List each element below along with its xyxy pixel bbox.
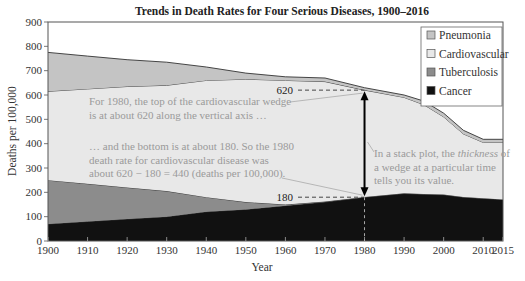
note-top-line: For 1980, the top of the cardiovascular … [89,95,291,107]
y-tick-label: 200 [26,186,43,198]
x-axis-label: Year [251,261,272,273]
legend-label-cancer: Cancer [439,85,472,97]
y-tick-label: 900 [26,16,43,28]
x-tick-label: 1900 [37,244,60,256]
y-axis-label: Deaths per 100,000 [6,86,19,176]
y-tick-label: 100 [26,210,43,222]
note-bottom-line: about 620 − 180 = 440 (deaths per 100,00… [89,167,286,180]
note-right-line: In a stack plot, the thickness of [374,147,510,159]
x-tick-label: 1940 [195,244,218,256]
legend: PneumoniaCardiovascularTuberculosisCance… [421,27,509,106]
y-tick-label: 300 [26,162,43,174]
x-tick-label: 1980 [354,244,377,256]
y-tick-label: 400 [26,137,43,149]
legend-swatch-tuberculosis [427,68,435,76]
x-tick-label: 1930 [156,244,179,256]
legend-swatch-cancer [427,87,435,95]
note-top-line: is at about 620 along the vertical axis … [89,109,267,121]
legend-label-pneumonia: Pneumonia [439,29,491,41]
x-tick-label: 1910 [77,244,100,256]
x-tick-label: 2000 [433,244,456,256]
legend-label-tuberculosis: Tuberculosis [439,66,499,78]
note-bottom-line: … and the bottom is at about 180. So the… [89,140,295,152]
note-right-line: tells you its value. [374,174,454,186]
y-tick-label: 500 [26,113,43,125]
y-tick-label: 700 [26,64,43,76]
stacked-area-chart: Trends in Death Rates for Four Serious D… [0,0,525,281]
note-bottom-line: death rate for cardiovascular disease wa… [89,154,269,166]
bottom-marker-label: 180 [277,191,294,203]
x-tick-label: 1960 [274,244,297,256]
x-tick-label: 1990 [393,244,416,256]
x-tick-label: 2015 [492,244,515,256]
y-tick-label: 800 [26,40,43,52]
y-axis: 0100200300400500600700800900 [26,16,49,247]
x-tick-label: 1920 [116,244,139,256]
note-right-line: a wedge at a particular time [374,161,496,173]
legend-swatch-pneumonia [427,31,435,39]
x-tick-label: 1970 [314,244,337,256]
y-tick-label: 600 [26,89,43,101]
chart-title: Trends in Death Rates for Four Serious D… [135,5,429,17]
legend-label-cardiovascular: Cardiovascular [439,48,509,60]
legend-swatch-cardiovascular [427,50,435,58]
x-tick-label: 1950 [235,244,258,256]
